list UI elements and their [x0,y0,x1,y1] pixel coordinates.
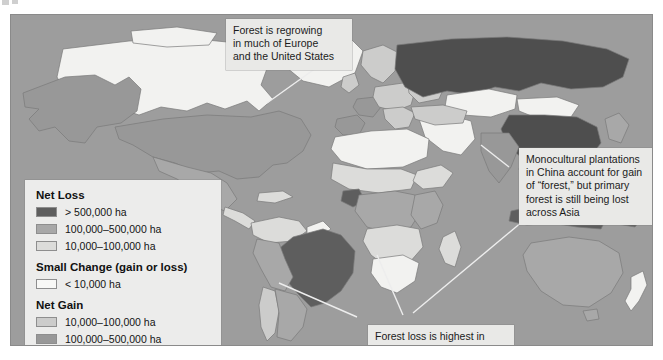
legend-swatch [36,241,57,251]
legend-label: 10,000–100,000 ha [65,240,156,252]
annotation-forest-loss: Forest loss is highest in Latin America,… [368,325,514,346]
annotation-line: Monocultural plantations [526,153,653,166]
legend-label: 10,000–100,000 ha [65,316,156,328]
scan-artifact [12,0,18,4]
legend-label: > 500,000 ha [65,206,127,218]
legend-swatch [36,334,57,344]
legend-label: < 10,000 ha [65,278,121,290]
legend-heading-small-change: Small Change (gain or loss) [36,261,212,273]
legend-swatch [36,207,57,217]
legend-item: 10,000–100,000 ha [36,238,212,253]
legend-label: 100,000–500,000 ha [65,333,161,345]
legend-swatch [36,279,57,289]
annotation-line: of “forest,” but primary [526,179,653,192]
legend-swatch [36,224,57,234]
legend-heading-net-loss: Net Loss [36,189,212,201]
legend-heading-net-gain: Net Gain [36,299,212,311]
legend-item: 100,000–500,000 ha [36,331,212,346]
map-legend: Net Loss > 500,000 ha 100,000–500,000 ha… [25,180,221,346]
scan-artifact [2,0,9,5]
legend-item: > 500,000 ha [36,204,212,219]
legend-item: < 10,000 ha [36,276,212,291]
annotation-line: and the United States [233,50,345,63]
annotation-line: across Asia [526,206,653,219]
annotation-line: Forest loss is highest in [375,330,507,343]
legend-label: 100,000–500,000 ha [65,223,161,235]
annotation-line: forest is still being lost [526,193,653,206]
figure-root: .c{stroke:#7a7a7a;stroke-width:0.7;strok… [0,0,663,360]
annotation-europe: Forest is regrowing in much of Europe an… [226,19,352,70]
annotation-line: Forest is regrowing [233,24,345,37]
legend-swatch [36,317,57,327]
legend-item: 100,000–500,000 ha [36,221,212,236]
annotation-line: in China account for gain [526,166,653,179]
legend-item: 10,000–100,000 ha [36,314,212,329]
world-map-plate: .c{stroke:#7a7a7a;stroke-width:0.7;strok… [10,14,653,346]
annotation-line: Latin America, Africa, [375,343,507,346]
annotation-line: in much of Europe [233,37,345,50]
annotation-china: Monocultural plantations in China accoun… [519,148,653,225]
